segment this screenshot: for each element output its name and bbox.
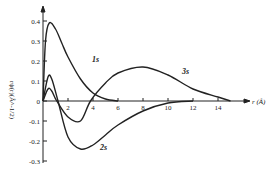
curves: [43, 23, 231, 150]
svg-text:-0.2: -0.2: [29, 138, 41, 146]
svg-text:4: 4: [91, 104, 95, 112]
label-1s: 1s: [92, 55, 99, 64]
svg-text:0: 0: [37, 98, 41, 106]
curve-2s: [43, 75, 193, 149]
svg-text:12: 12: [190, 104, 198, 112]
svg-text:0.2: 0.2: [31, 58, 40, 66]
y-axis-label: rψ(r)(Å^-1/2): [8, 81, 16, 120]
svg-text:-0.3: -0.3: [29, 158, 41, 166]
svg-text:-0.1: -0.1: [29, 118, 41, 126]
label-2s: 2s: [99, 143, 107, 152]
svg-text:10: 10: [165, 104, 173, 112]
svg-text:6: 6: [116, 104, 120, 112]
label-3s: 3s: [181, 67, 189, 76]
svg-text:0.4: 0.4: [31, 18, 40, 26]
svg-text:14: 14: [215, 104, 223, 112]
x-axis-label: r (Å): [252, 98, 266, 106]
chart: 0.40.30.20.10-0.1-0.2-0.3 2468101214 rψ(…: [0, 0, 280, 171]
axes: [41, 6, 250, 163]
svg-text:0.1: 0.1: [31, 78, 40, 86]
svg-text:0.3: 0.3: [31, 38, 40, 46]
svg-text:2: 2: [66, 104, 70, 112]
